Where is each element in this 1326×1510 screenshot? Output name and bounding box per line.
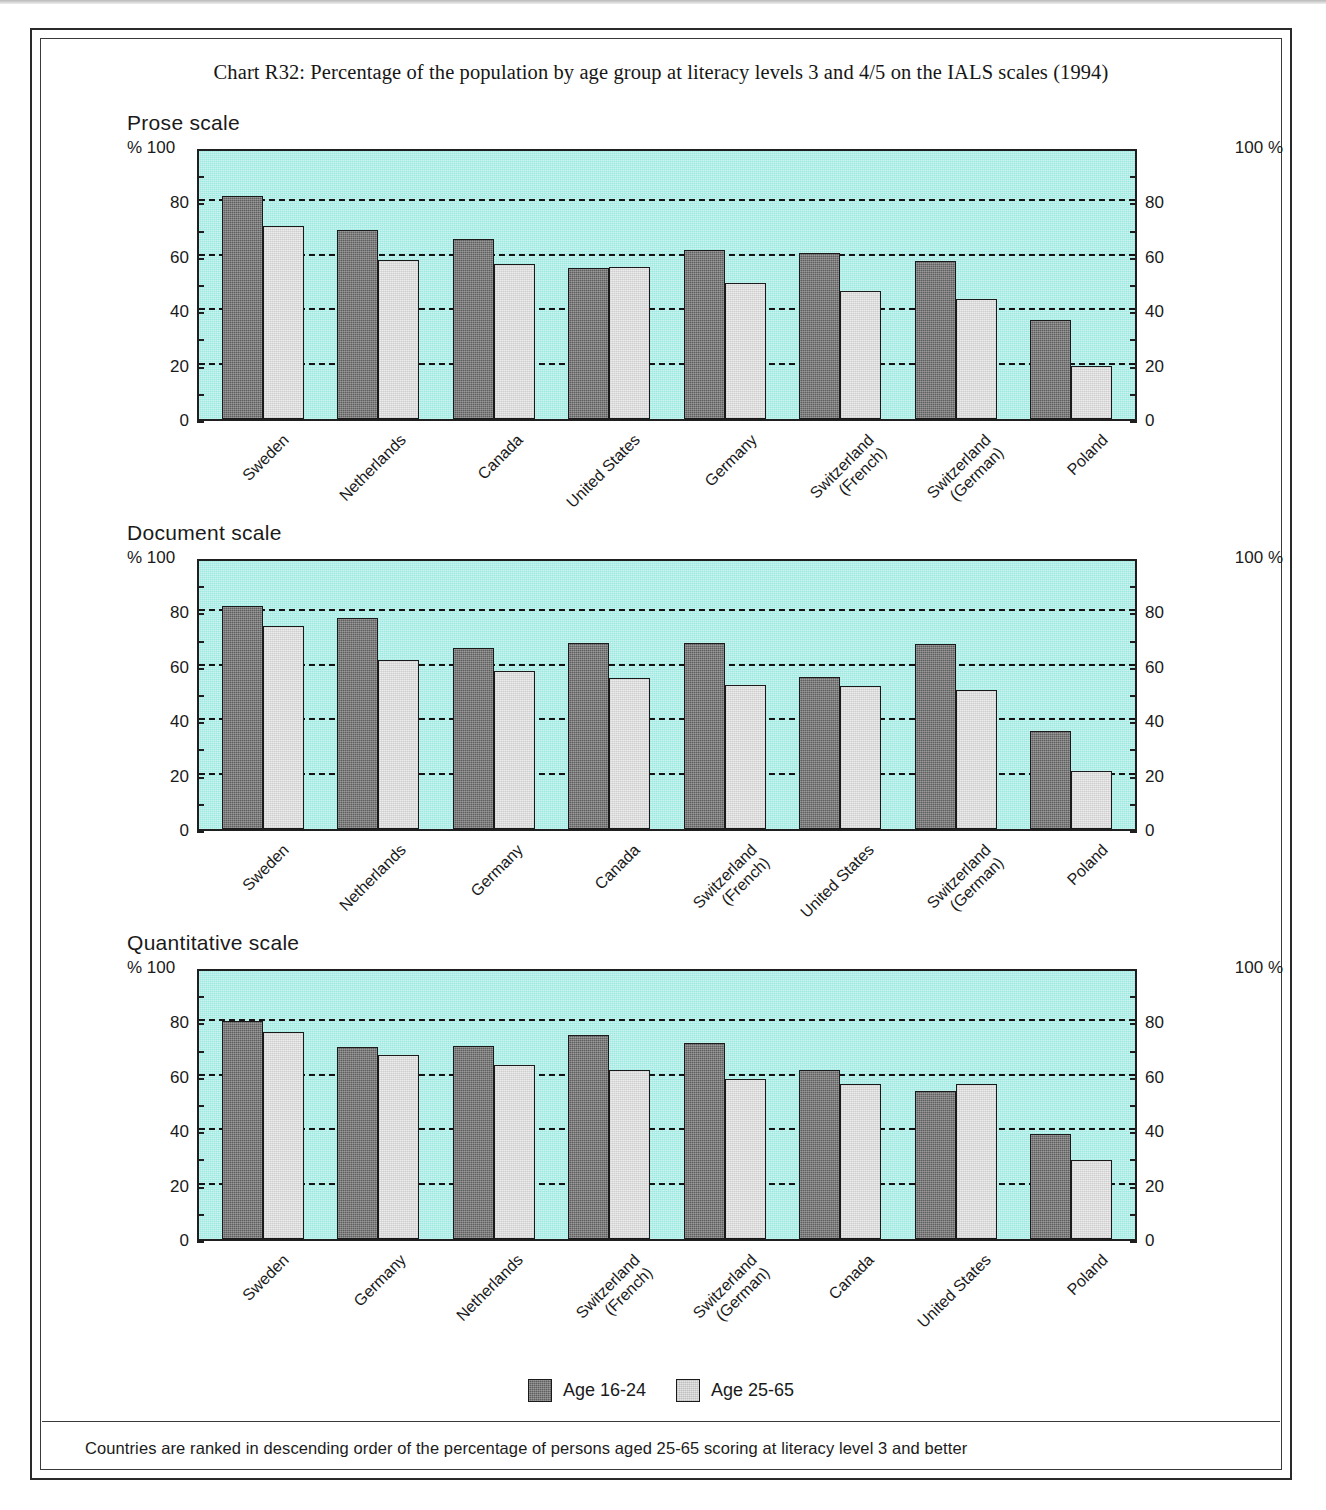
y-tick-label-right-20: 20: [1145, 768, 1203, 785]
tickmark-right: [1130, 749, 1137, 751]
legend-item: Age 16-24: [528, 1379, 646, 1402]
bar-age-25-65: [725, 283, 766, 419]
x-axis-label: Canada: [825, 1251, 877, 1303]
tickmark-left: [197, 722, 204, 724]
bar-age-16-24: [915, 644, 956, 829]
bar-age-16-24: [453, 648, 494, 829]
tickmark-right: [1130, 231, 1137, 233]
y-tick-label-left-20: 20: [131, 768, 189, 785]
x-axis-label: Switzerland(German): [923, 431, 1007, 515]
y-tick-label-right-40: 40: [1145, 303, 1203, 320]
y-tick-label-left-60: 60: [131, 249, 189, 266]
bar-age-25-65: [956, 690, 997, 829]
y-axis-right: 020406080: [1145, 149, 1207, 421]
tickmark-right: [1130, 722, 1137, 724]
bar-age-16-24: [1030, 320, 1071, 419]
bar-group: [337, 1047, 419, 1239]
bar-age-16-24: [568, 1035, 609, 1239]
bar-age-16-24: [684, 1043, 725, 1239]
bar-group: [915, 1084, 997, 1239]
y-tick-label-left-0: 0: [131, 1232, 189, 1249]
tickmark-left: [197, 641, 204, 643]
page-title: Chart R32: Percentage of the population …: [41, 61, 1281, 84]
plot-area: [197, 969, 1137, 1241]
bar-age-25-65: [840, 291, 881, 419]
tickmark-right: [1130, 258, 1137, 260]
tickmark-right: [1130, 367, 1137, 369]
tickmark-left: [197, 1051, 204, 1053]
bar-group: [1030, 1134, 1112, 1239]
plot-wrapper: % 100100 %020406080020406080SwedenNether…: [127, 559, 1207, 831]
bar-age-25-65: [263, 626, 304, 829]
legend-item: Age 25-65: [676, 1379, 794, 1402]
y-tick-label-left-80: 80: [131, 604, 189, 621]
tickmark-left: [197, 804, 204, 806]
tickmark-right: [1130, 1078, 1137, 1080]
bar-group: [222, 606, 304, 829]
bar-age-25-65: [725, 1079, 766, 1239]
tickmark-left: [197, 176, 204, 178]
bar-age-25-65: [840, 686, 881, 829]
bar-group: [684, 643, 766, 829]
bar-age-25-65: [263, 1032, 304, 1239]
figure-outer-border: Chart R32: Percentage of the population …: [30, 28, 1292, 1480]
x-axis-label: Netherlands: [452, 1251, 526, 1325]
bar-age-16-24: [799, 677, 840, 829]
x-axis-label: Switzerland(German): [689, 1251, 773, 1335]
x-axis-label: Switzerland(French): [689, 841, 773, 925]
tickmark-left: [197, 339, 204, 341]
y-tick-label-right-80: 80: [1145, 604, 1203, 621]
tickmark-left: [197, 559, 204, 561]
bar-age-16-24: [799, 1070, 840, 1239]
tickmark-left: [197, 586, 204, 588]
y-tick-label-right-0: 0: [1145, 1232, 1203, 1249]
bar-age-25-65: [609, 1070, 650, 1239]
y-tick-label-right-20: 20: [1145, 358, 1203, 375]
bar-age-16-24: [222, 606, 263, 829]
bar-age-16-24: [337, 618, 378, 829]
tickmark-right: [1130, 668, 1137, 670]
tickmark-left: [197, 367, 204, 369]
y-axis-right: 020406080: [1145, 969, 1207, 1241]
tickmark-right: [1130, 1214, 1137, 1216]
bar-age-25-65: [609, 267, 650, 419]
bar-age-25-65: [494, 1065, 535, 1239]
bar-age-25-65: [725, 685, 766, 829]
tickmark-left: [197, 1132, 204, 1134]
x-axis-label: Germany: [467, 841, 526, 900]
bar-group: [337, 618, 419, 829]
tickmark-left: [197, 613, 204, 615]
plot-area: [197, 149, 1137, 421]
tickmark-left: [197, 695, 204, 697]
tickmark-right: [1130, 1023, 1137, 1025]
legend-swatch-light: [676, 1379, 700, 1402]
tickmark-left: [197, 1078, 204, 1080]
bar-age-16-24: [1030, 1134, 1071, 1239]
bar-age-16-24: [915, 261, 956, 419]
bar-group: [337, 230, 419, 419]
bar-age-25-65: [378, 260, 419, 419]
bar-group: [915, 261, 997, 419]
bar-age-16-24: [222, 1021, 263, 1239]
bar-age-16-24: [1030, 731, 1071, 829]
tickmark-left: [197, 231, 204, 233]
y-axis-unit-right: 100 %: [1235, 138, 1283, 158]
tickmark-right: [1130, 777, 1137, 779]
bar-age-16-24: [222, 196, 263, 419]
bar-group: [1030, 320, 1112, 419]
tickmark-left: [197, 668, 204, 670]
tickmark-left: [197, 285, 204, 287]
y-tick-label-left-20: 20: [131, 1178, 189, 1195]
x-axis-label: Sweden: [239, 431, 293, 485]
legend-swatch-dark: [528, 1379, 552, 1402]
x-axis-label: United States: [797, 841, 878, 922]
tickmark-right: [1130, 176, 1137, 178]
tickmark-left: [197, 777, 204, 779]
bar-age-25-65: [1071, 771, 1112, 829]
bar-group: [915, 644, 997, 829]
chart-heading: Document scale: [127, 521, 282, 545]
tickmark-left: [197, 749, 204, 751]
tickmark-left: [197, 1187, 204, 1189]
chart-heading: Quantitative scale: [127, 931, 299, 955]
y-tick-label-left-60: 60: [131, 659, 189, 676]
